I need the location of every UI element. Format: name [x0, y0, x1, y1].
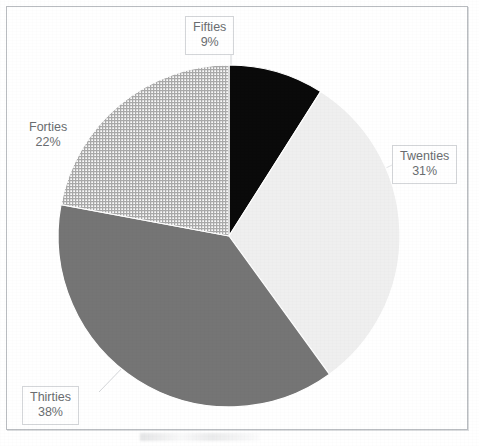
data-label-forties[interactable]: Forties 22%: [21, 116, 75, 155]
data-label-fifties-value: 9%: [193, 35, 226, 50]
data-label-twenties[interactable]: Twenties 31%: [392, 145, 457, 184]
data-label-fifties[interactable]: Fifties 9%: [185, 16, 234, 55]
page-smudge: [140, 433, 260, 441]
data-label-twenties-value: 31%: [400, 164, 449, 179]
data-label-thirties-name: Thirties: [30, 390, 71, 405]
data-label-fifties-name: Fifties: [193, 20, 226, 35]
data-label-forties-name: Forties: [29, 120, 67, 135]
data-label-thirties[interactable]: Thirties 38%: [22, 386, 79, 425]
data-label-thirties-value: 38%: [30, 405, 71, 420]
data-label-twenties-name: Twenties: [400, 149, 449, 164]
pie-chart: [0, 0, 479, 446]
data-label-forties-value: 22%: [29, 135, 67, 150]
chart-screenshot: Fifties 9% Twenties 31% Forties 22% Thir…: [0, 0, 479, 446]
